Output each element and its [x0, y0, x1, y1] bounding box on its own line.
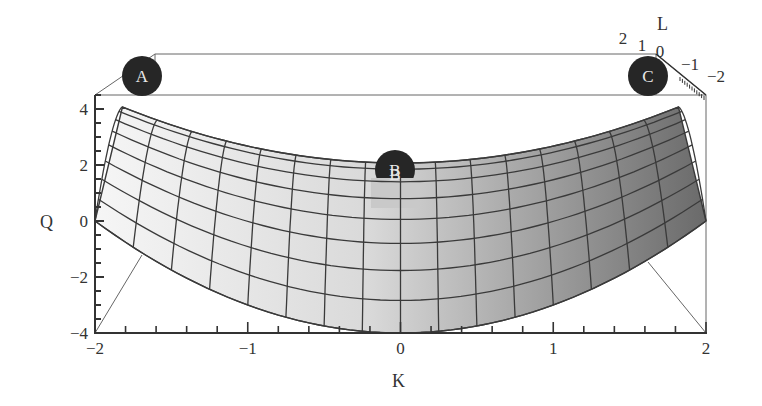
k-axis-title: K: [392, 371, 405, 391]
q-axis-title: Q: [40, 212, 53, 232]
marker-label: A: [136, 67, 149, 86]
k-tick-label: −2: [86, 339, 104, 358]
surface-mesh: [95, 107, 706, 333]
q-tick-label: 0: [80, 212, 89, 231]
marker-label: C: [642, 67, 653, 86]
l-axis-title: L: [657, 14, 668, 34]
k-tick-label: 1: [549, 339, 558, 358]
q-tick-label: −2: [70, 268, 88, 287]
k-tick-label: −1: [239, 339, 257, 358]
l-tick-label: −1: [681, 55, 699, 74]
marker-a: A: [122, 56, 162, 96]
k-tick-label: 0: [396, 339, 405, 358]
l-tick-label: 1: [638, 36, 647, 55]
k-tick-label: 2: [702, 339, 711, 358]
q-tick-label: 2: [80, 156, 89, 175]
marker-c: C: [628, 56, 668, 96]
marker-label-b: B: [389, 165, 400, 184]
l-tick-label: 2: [619, 29, 628, 48]
surface-plot: 420−2−4 −2−1012 210−1−2 Q K L ABCB: [0, 0, 762, 406]
q-tick-label: 4: [80, 100, 89, 119]
l-tick-label: −2: [707, 67, 725, 86]
